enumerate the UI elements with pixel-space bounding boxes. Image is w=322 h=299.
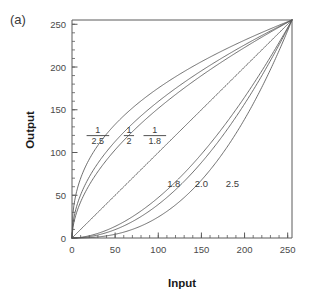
curves-group xyxy=(72,20,292,238)
x-axis-title: Input xyxy=(168,277,196,289)
x-tick-label: 200 xyxy=(237,244,253,255)
x-tick-label: 50 xyxy=(110,244,121,255)
y-tick-label: 150 xyxy=(50,104,66,115)
curve-label: 2.5 xyxy=(226,178,239,189)
y-axis-title: Output xyxy=(24,111,36,149)
curve-label-numerator: 1 xyxy=(126,125,131,135)
y-tick-label: 250 xyxy=(50,19,66,30)
x-tick-label: 150 xyxy=(193,244,209,255)
gamma-curve xyxy=(72,20,292,238)
x-tick-label: 100 xyxy=(150,244,166,255)
curve-label: 2.0 xyxy=(195,178,208,189)
curve-label-denominator: 2 xyxy=(126,136,131,146)
axes-group: 050100150200250050100150200250 xyxy=(50,19,295,255)
x-tick-label: 0 xyxy=(69,244,74,255)
y-tick-label: 100 xyxy=(50,147,66,158)
y-tick-label: 200 xyxy=(50,62,66,73)
curve-label-numerator: 1 xyxy=(95,125,100,135)
curve-label: 1.8 xyxy=(167,178,180,189)
curve-label-denominator: 1.8 xyxy=(149,136,162,146)
x-tick-label: 250 xyxy=(280,244,296,255)
curve-label-denominator: 2.5 xyxy=(92,136,105,146)
y-tick-label: 0 xyxy=(61,233,66,244)
gamma-curve-figure: (a) 050100150200250050100150200250 12.51… xyxy=(0,0,322,299)
curve-label-numerator: 1 xyxy=(152,125,157,135)
y-tick-label: 50 xyxy=(55,190,66,201)
gamma-plot: 050100150200250050100150200250 12.51211.… xyxy=(0,0,322,299)
